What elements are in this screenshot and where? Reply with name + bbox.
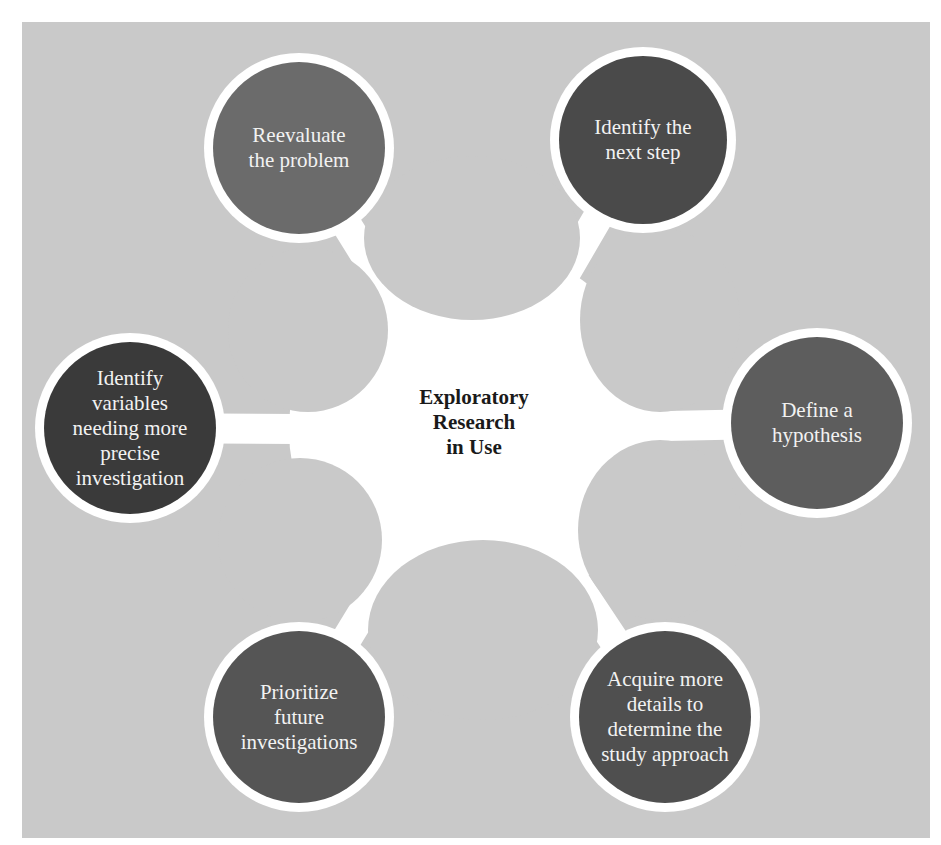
node-prioritize-investigations: Prioritize future investigations xyxy=(213,631,385,803)
node-label: Acquire more details to determine the st… xyxy=(597,667,733,767)
center-title: Exploratory Research in Use xyxy=(374,385,574,460)
node-acquire-details: Acquire more details to determine the st… xyxy=(579,631,751,803)
node-reevaluate-problem: Reevaluate the problem xyxy=(213,62,385,234)
node-label: Define a hypothesis xyxy=(768,398,866,448)
diagram-canvas: Exploratory Research in Use Reevaluate t… xyxy=(0,0,941,845)
node-label: Prioritize future investigations xyxy=(237,680,362,755)
node-label: Identify variables needing more precise … xyxy=(69,366,192,491)
node-label: Identify the next step xyxy=(590,115,695,165)
node-identify-next-step: Identify the next step xyxy=(559,56,727,224)
node-define-hypothesis: Define a hypothesis xyxy=(731,337,903,509)
node-identify-variables: Identify variables needing more precise … xyxy=(44,342,216,514)
node-label: Reevaluate the problem xyxy=(245,123,354,173)
